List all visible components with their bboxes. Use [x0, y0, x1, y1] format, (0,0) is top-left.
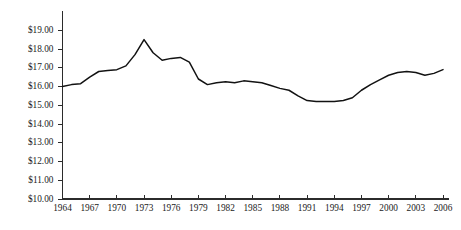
- x-tick-label: 1997: [352, 203, 371, 213]
- x-tick-label: 1985: [243, 203, 262, 213]
- x-tick-label: 2003: [407, 203, 426, 213]
- y-tick-label: $19.00: [28, 25, 54, 35]
- x-axis-labels: 1964196719701973197619791982198519881991…: [53, 203, 452, 213]
- x-axis-ticks: [63, 195, 444, 200]
- x-tick-label: 1964: [53, 203, 72, 213]
- chart-container: $19.00$18.00$17.00$16.00$15.00$14.00$13.…: [0, 0, 461, 230]
- y-tick-label: $11.00: [28, 175, 54, 185]
- x-tick-label: 1970: [108, 203, 127, 213]
- data-series-line: [63, 40, 444, 102]
- y-axis-ticks: [58, 30, 63, 199]
- x-tick-label: 1967: [80, 203, 99, 213]
- y-axis-labels: $19.00$18.00$17.00$16.00$15.00$14.00$13.…: [28, 25, 54, 204]
- x-tick-label: 1976: [162, 203, 181, 213]
- y-tick-label: $16.00: [28, 81, 54, 91]
- y-tick-label: $18.00: [28, 44, 54, 54]
- x-tick-label: 1988: [271, 203, 290, 213]
- x-tick-label: 1979: [189, 203, 208, 213]
- y-tick-label: $13.00: [28, 137, 54, 147]
- x-tick-label: 2000: [379, 203, 398, 213]
- x-tick-label: 1991: [298, 203, 317, 213]
- y-tick-label: $10.00: [28, 194, 54, 204]
- line-chart-plot: $19.00$18.00$17.00$16.00$15.00$14.00$13.…: [0, 0, 461, 230]
- y-tick-label: $15.00: [28, 100, 54, 110]
- x-tick-label: 1982: [216, 203, 235, 213]
- x-tick-label: 2006: [434, 203, 453, 213]
- x-tick-label: 1973: [135, 203, 154, 213]
- y-tick-label: $12.00: [28, 156, 54, 166]
- y-tick-label: $17.00: [28, 62, 54, 72]
- x-tick-label: 1994: [325, 203, 344, 213]
- y-tick-label: $14.00: [28, 119, 54, 129]
